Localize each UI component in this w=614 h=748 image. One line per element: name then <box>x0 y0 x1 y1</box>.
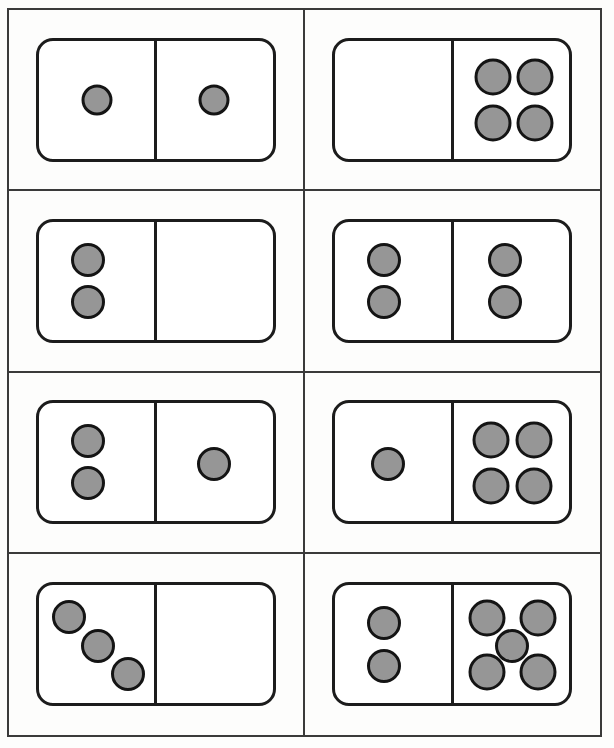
domino-7-left-pip-1 <box>52 600 86 634</box>
domino-5-right-pip-1 <box>197 447 231 481</box>
domino-3-left-half <box>39 222 156 340</box>
domino-2-right-pip-4 <box>517 105 554 142</box>
domino-3-left-pip-1 <box>71 243 105 277</box>
domino-3[interactable] <box>36 219 276 343</box>
domino-4-right-pip-2 <box>488 285 522 319</box>
domino-1-center-divider <box>154 40 157 160</box>
domino-6-left-half <box>335 403 452 521</box>
domino-7-left-half <box>39 585 156 703</box>
domino-6-right-half <box>452 403 569 521</box>
domino-1[interactable] <box>36 38 276 162</box>
grid-cell-8 <box>305 554 601 735</box>
domino-5-left-pip-2 <box>71 466 105 500</box>
domino-6-center-divider <box>451 402 454 522</box>
domino-2-right-half <box>452 41 569 159</box>
domino-7-left-pip-3 <box>111 657 145 691</box>
grid-cell-6 <box>305 373 601 554</box>
domino-1-left-half <box>39 41 156 159</box>
domino-8-right-pip-4 <box>469 653 506 690</box>
grid-cell-3 <box>9 191 305 372</box>
domino-4-right-pip-1 <box>488 243 522 277</box>
grid-cell-2 <box>305 10 601 191</box>
domino-4-right-half <box>452 222 569 340</box>
domino-3-center-divider <box>154 221 157 341</box>
domino-8-right-pip-5 <box>519 653 556 690</box>
domino-7[interactable] <box>36 582 276 706</box>
domino-2-left-half <box>335 41 452 159</box>
grid-cell-5 <box>9 373 305 554</box>
domino-8-center-divider <box>451 584 454 704</box>
domino-8-left-half <box>335 585 452 703</box>
domino-5-left-half <box>39 403 156 521</box>
domino-4-center-divider <box>451 221 454 341</box>
domino-3-left-pip-2 <box>71 285 105 319</box>
domino-3-right-half <box>156 222 273 340</box>
domino-1-left-pip-1 <box>82 84 113 115</box>
domino-5-left-pip-1 <box>71 424 105 458</box>
domino-7-left-pip-2 <box>81 629 115 663</box>
domino-8[interactable] <box>332 582 572 706</box>
domino-7-right-half <box>156 585 273 703</box>
grid-cell-4 <box>305 191 601 372</box>
domino-2-right-pip-3 <box>475 105 512 142</box>
domino-8-right-half <box>452 585 569 703</box>
domino-grid <box>7 8 602 737</box>
domino-4-left-half <box>335 222 452 340</box>
domino-5[interactable] <box>36 400 276 524</box>
domino-8-right-pip-2 <box>519 600 556 637</box>
domino-6-right-pip-4 <box>516 467 553 504</box>
domino-2-right-pip-2 <box>517 59 554 96</box>
domino-7-center-divider <box>154 584 157 704</box>
domino-1-right-half <box>156 41 273 159</box>
domino-1-right-pip-1 <box>199 84 230 115</box>
domino-6-left-pip-1 <box>371 447 405 481</box>
domino-5-right-half <box>156 403 273 521</box>
grid-cell-7 <box>9 554 305 735</box>
worksheet-page <box>0 0 614 748</box>
domino-4[interactable] <box>332 219 572 343</box>
grid-cell-1 <box>9 10 305 191</box>
domino-2-center-divider <box>451 40 454 160</box>
domino-6[interactable] <box>332 400 572 524</box>
domino-8-left-pip-2 <box>367 649 401 683</box>
domino-2-right-pip-1 <box>475 59 512 96</box>
domino-4-left-pip-2 <box>367 285 401 319</box>
domino-5-center-divider <box>154 402 157 522</box>
domino-6-right-pip-2 <box>516 421 553 458</box>
domino-6-right-pip-3 <box>472 467 509 504</box>
domino-8-left-pip-1 <box>367 606 401 640</box>
domino-6-right-pip-1 <box>472 421 509 458</box>
domino-2[interactable] <box>332 38 572 162</box>
domino-4-left-pip-1 <box>367 243 401 277</box>
